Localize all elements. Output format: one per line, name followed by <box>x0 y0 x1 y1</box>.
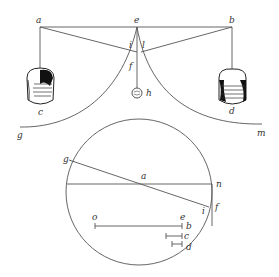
label-l-top: l <box>142 40 145 50</box>
label-a-circle: a <box>141 171 146 181</box>
label-h-top: h <box>146 88 152 98</box>
lower-circle-diagram: g a n i f o e b c d <box>63 119 222 265</box>
label-g-circle: g <box>63 154 69 164</box>
label-e-top: e <box>134 15 139 25</box>
label-n-circle: n <box>216 179 222 189</box>
line-g-a-i <box>69 160 209 207</box>
label-b-circle: b <box>186 221 192 231</box>
label-a-top: a <box>36 15 41 25</box>
label-f-top: f <box>128 61 134 71</box>
line-b-to-l <box>141 27 232 52</box>
label-i-circle: i <box>202 206 205 216</box>
label-o-circle: o <box>92 212 98 222</box>
upper-apparatus: a e b i l f h c d g m <box>17 15 266 140</box>
label-g-top: g <box>17 130 23 140</box>
line-a-to-i <box>40 27 137 52</box>
label-i-top: i <box>129 40 132 50</box>
label-m-top: m <box>257 128 266 138</box>
plumb-bob-icon <box>132 88 142 98</box>
label-d-circle: d <box>186 242 192 252</box>
label-b-top: b <box>229 15 235 25</box>
weight-d-icon <box>219 69 246 104</box>
label-d-top: d <box>229 106 235 116</box>
label-f-circle: f <box>214 202 220 212</box>
label-c-top: c <box>38 107 43 117</box>
weight-c-icon <box>27 68 54 104</box>
label-c-circle: c <box>184 231 189 241</box>
diagram-canvas: a e b i l f h c d g m g a n i f o e b c <box>0 0 279 277</box>
label-e-circle: e <box>180 212 185 222</box>
